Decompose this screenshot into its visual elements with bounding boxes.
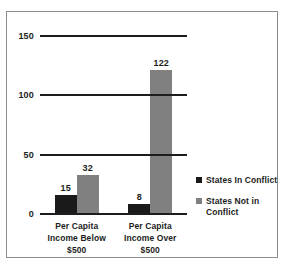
bar-group-container: 15328122	[40, 35, 187, 213]
category-label-line: Income Over	[114, 232, 188, 244]
legend-label-line: Conflict	[206, 207, 259, 218]
category-label: Per CapitaIncome Below$500	[40, 220, 114, 256]
gridline-0	[40, 213, 187, 215]
legend-label-line: States In Conflict	[206, 175, 277, 186]
legend-swatch-icon	[196, 177, 202, 183]
gridline-150	[40, 35, 187, 37]
bar: 8	[128, 204, 150, 213]
chart-legend: States In ConflictStates Not inConflict	[196, 175, 282, 228]
legend-label: States Not inConflict	[206, 196, 259, 218]
gridline-100	[40, 94, 187, 96]
bar-value-label: 8	[137, 192, 142, 202]
plot-area: 15328122 050100150	[40, 35, 187, 215]
chart-frame: 15328122 050100150 Per CapitaIncome Belo…	[6, 11, 278, 258]
y-axis-tick-label: 0	[29, 209, 34, 219]
legend-item[interactable]: States Not inConflict	[196, 196, 282, 218]
category-label-line: Per Capita	[114, 220, 188, 232]
category-label-line: $500	[40, 244, 114, 256]
legend-label: States In Conflict	[206, 175, 277, 186]
y-axis-tick-label: 100	[18, 90, 34, 100]
bar: 32	[77, 175, 99, 213]
category-label: Per CapitaIncome Over$500	[114, 220, 188, 256]
bar: 15	[55, 195, 77, 213]
gridline-50	[40, 154, 187, 156]
chart-figure: 15328122 050100150 Per CapitaIncome Belo…	[0, 0, 285, 265]
category-label-line: Income Below	[40, 232, 114, 244]
bar-value-label: 122	[153, 58, 169, 68]
bar: 122	[150, 70, 172, 213]
bar-value-label: 15	[61, 183, 71, 193]
legend-item[interactable]: States In Conflict	[196, 175, 282, 186]
legend-label-line: States Not in	[206, 196, 259, 207]
legend-swatch-icon	[196, 198, 202, 204]
bar-value-label: 32	[83, 163, 93, 173]
y-axis-tick-label: 150	[18, 31, 34, 41]
category-axis-labels: Per CapitaIncome Below$500Per CapitaInco…	[40, 220, 187, 264]
y-axis-tick-label: 50	[24, 150, 34, 160]
category-label-line: Per Capita	[40, 220, 114, 232]
category-label-line: $500	[114, 244, 188, 256]
